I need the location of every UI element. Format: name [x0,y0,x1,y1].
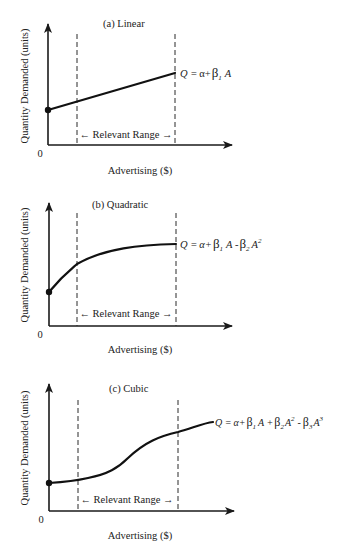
equation-label: Q =α+β1A -β2A2 [180,236,262,253]
demand-curve [48,73,175,110]
y-axis-label: Quantity Demanded (units) [19,390,31,505]
panel-cubic: (c) Cubic Q =α+β1A +β2A2-β3A3 ← Relevant… [19,383,324,542]
panel-title: (b) Quadratic [92,199,149,211]
relevant-range-label: ← Relevant Range → [79,129,172,140]
equation-label: Q =α+β1A [180,65,232,82]
origin-label: 0 [38,514,43,525]
x-axis-label: Advertising ($) [108,530,173,542]
panel-linear: (a) Linear Q =α+β1A ← Relevant Range → 0… [19,18,232,177]
origin-label: 0 [37,329,42,340]
y-axis-label: Quantity Demanded (units) [19,28,31,143]
panel-title: (a) Linear [103,18,145,30]
demand-curve [49,244,176,292]
figure-canvas: (a) Linear Q =α+β1A ← Relevant Range → 0… [0,0,354,554]
x-axis-label: Advertising ($) [108,344,173,356]
relevant-range-label: ← Relevant Range → [80,494,173,505]
y-axis-label: Quantity Demanded (units) [19,207,31,322]
panel-quadratic: (b) Quadratic Q =α+β1A -β2A2 ← Relevant … [19,199,262,356]
intercept-dot [46,289,52,295]
panel-title: (c) Cubic [109,383,149,395]
relevant-range-label: ← Relevant Range → [79,308,172,319]
origin-label: 0 [37,148,42,159]
intercept-dot [46,480,52,486]
demand-curve [49,422,213,483]
intercept-dot [45,107,51,113]
equation-label: Q =α+β1A +β2A2-β3A3 [215,415,324,431]
x-axis-label: Advertising ($) [108,165,173,177]
